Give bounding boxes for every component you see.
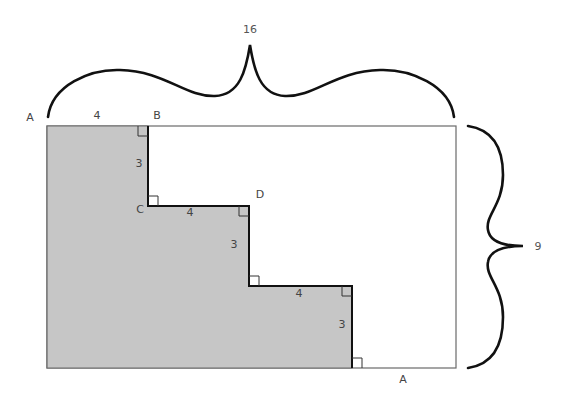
segment-label-step2-h: 4 [296, 287, 303, 300]
geometry-diagram: 16 9 A B C D A 4 3 4 3 4 3 [0, 0, 568, 393]
point-label-d: D [256, 188, 264, 201]
top-brace [48, 45, 454, 117]
width-label: 16 [243, 23, 257, 36]
point-label-b: B [153, 109, 161, 122]
height-label: 9 [535, 240, 542, 253]
segment-label-bc: 3 [136, 157, 143, 170]
point-label-a-top: A [26, 111, 34, 124]
point-label-a-bottom: A [399, 373, 407, 386]
point-label-c: C [136, 203, 144, 216]
right-brace [468, 126, 523, 368]
segment-label-cd: 4 [187, 206, 194, 219]
segment-label-ab: 4 [94, 109, 101, 122]
segment-label-d-down: 3 [231, 238, 238, 251]
segment-label-step2-v: 3 [339, 318, 346, 331]
